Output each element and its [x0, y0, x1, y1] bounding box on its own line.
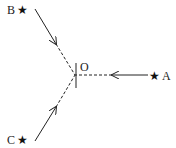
point-b-label: B — [7, 3, 15, 17]
star-c-icon: ★ — [17, 133, 28, 147]
ray-c — [35, 75, 75, 141]
ray-b — [35, 9, 75, 75]
star-a-icon: ★ — [149, 69, 160, 83]
point-c-label: C — [7, 133, 15, 147]
point-a-label: A — [162, 69, 171, 83]
center-label: O — [80, 60, 89, 74]
force-diagram: O ★ A B ★ C ★ — [0, 0, 176, 148]
star-b-icon: ★ — [17, 3, 28, 17]
